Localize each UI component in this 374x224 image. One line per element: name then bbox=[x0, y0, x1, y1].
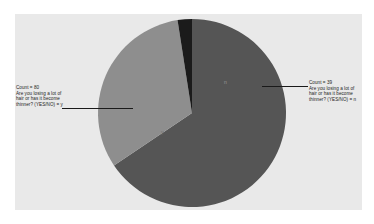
pie-svg bbox=[15, 14, 362, 210]
pie-graphic: n y bbox=[15, 14, 362, 210]
callout-right-line-3: hair or has it become bbox=[309, 91, 356, 97]
leader-line-right bbox=[262, 86, 308, 87]
callout-left-line-4: thinner? (YES/NO) = y bbox=[16, 102, 63, 108]
callout-label-right: Count = 39 Are you losing a lot of hair … bbox=[309, 80, 356, 102]
leader-line-left bbox=[62, 108, 133, 109]
callout-right-line-4: thinner? (YES/NO) = n bbox=[309, 97, 356, 103]
pie-chart-figure: n y Count = 80 Are you losing a lot of h… bbox=[15, 14, 362, 210]
callout-label-left: Count = 80 Are you losing a lot of hair … bbox=[16, 85, 63, 107]
callout-left-line-3: hair or has it become bbox=[16, 96, 63, 102]
